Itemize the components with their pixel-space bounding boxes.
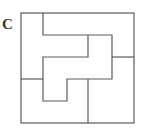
outer-square <box>21 13 134 123</box>
piece-edge-upper-right <box>43 35 112 101</box>
piece-edge-top <box>43 13 88 35</box>
dissection-diagram <box>0 0 141 128</box>
